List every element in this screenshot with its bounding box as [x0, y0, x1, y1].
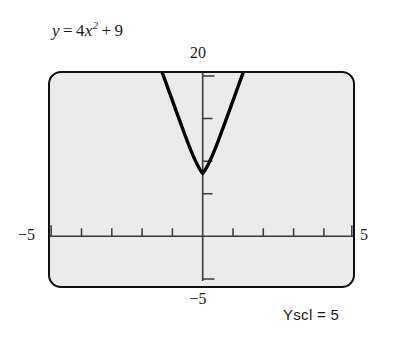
equation-coefficient: 4: [76, 21, 85, 40]
equation-equals: =: [60, 21, 76, 40]
plot-canvas: [50, 73, 353, 286]
equation-lhs: y: [52, 21, 60, 40]
calculator-screen: [48, 71, 355, 288]
equation-plus: +: [98, 21, 114, 40]
equation-constant: 9: [114, 21, 123, 40]
plot-area: [50, 73, 353, 286]
y-axis-ticks: [203, 76, 215, 279]
x-axis-ticks: [51, 225, 352, 236]
yscl-caption: Yscl = 5: [283, 306, 339, 323]
y-max-label: 20: [0, 44, 394, 62]
equation-label: y=4x2+9: [52, 20, 123, 41]
equation-variable: x: [85, 21, 93, 40]
graph-figure: y=4x2+9 20: [0, 0, 394, 344]
x-max-label: 5: [360, 226, 368, 244]
x-min-label: −5: [18, 226, 35, 244]
